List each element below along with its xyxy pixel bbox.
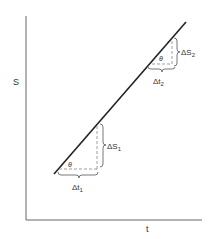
lower-dt-brace (58, 172, 98, 178)
upper-ds-label: ΔS2 (181, 48, 196, 58)
upper-ds-brace (174, 38, 180, 66)
lower-ds-brace (100, 124, 106, 167)
lower-dt-label: Δt1 (72, 183, 84, 193)
upper-dt-brace (148, 67, 175, 72)
y-axis-label: S (13, 77, 19, 87)
upper-triangle: θ ΔS2 Δt2 (148, 38, 196, 87)
x-axis-label: t (146, 224, 149, 234)
upper-angle-label: θ (159, 55, 163, 62)
lower-angle-label: θ (68, 161, 72, 168)
lower-ds-label: ΔS1 (107, 142, 122, 152)
upper-dt-label: Δt2 (153, 77, 165, 87)
slope-diagram: S t θ ΔS1 Δt1 θ ΔS2 Δt2 (0, 0, 212, 239)
